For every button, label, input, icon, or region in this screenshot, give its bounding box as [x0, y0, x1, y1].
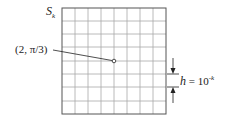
spacing-dimension [167, 58, 179, 103]
arrow-down-icon [171, 68, 176, 74]
arrow-up-icon [171, 87, 176, 93]
spacing-exponent: -k [209, 74, 214, 82]
point-marker [112, 59, 116, 63]
spacing-eq: = 10 [186, 75, 209, 87]
spacing-label: h = 10-k [180, 75, 214, 87]
point-label: (2, π/3) [15, 44, 47, 55]
grid-diagram [0, 0, 225, 120]
region-label-subscript: k [52, 12, 55, 20]
region-label: Sk [46, 5, 55, 17]
